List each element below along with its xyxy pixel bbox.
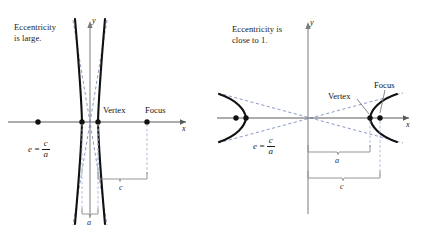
equation-operator-left: =	[35, 144, 40, 154]
equation-lhs-right: e	[253, 141, 257, 151]
x-axis-label-left: x	[182, 124, 186, 133]
equation-fraction-right: c a	[267, 136, 275, 157]
equation-operator-right: =	[260, 141, 265, 151]
measure-bracket-c-right	[308, 171, 380, 181]
measure-label-c-left: c	[119, 183, 123, 192]
vertex-leader-right	[357, 99, 369, 114]
caption-eccentricity-large: Eccentricity is large.	[14, 22, 92, 43]
equation-fraction-left: c a	[42, 139, 50, 160]
measure-bracket-a-right	[308, 145, 370, 155]
focus-point-right-1	[233, 115, 238, 120]
measure-label-c-right: c	[340, 182, 344, 191]
vertex-label-right: Vertex	[328, 91, 350, 101]
eccentricity-equation-right: e = c a	[253, 136, 275, 157]
focus-point-right-2	[377, 115, 382, 120]
vertex-point-right-2	[367, 115, 372, 120]
eccentricity-equation-left: e = c a	[28, 139, 50, 160]
x-axis-label-right: x	[406, 120, 410, 129]
panel-eccentricity-close-to-one: Eccentricity is close to 1. x y Vertex F…	[213, 0, 426, 237]
equation-numerator-left: c	[42, 139, 49, 148]
y-axis-left	[87, 21, 92, 218]
focus-label-right: Focus	[374, 80, 395, 90]
panel-eccentricity-large: Eccentricity is large. x y Vertex Focus …	[0, 0, 213, 237]
vertex-point-left-2	[95, 119, 100, 124]
focus-point-left-1	[35, 119, 40, 124]
caption-eccentricity-close-to-one: Eccentricity is close to 1.	[232, 24, 322, 45]
measure-label-a-right: a	[335, 156, 339, 165]
focus-label-left: Focus	[145, 105, 166, 115]
vertex-point-right-1	[243, 115, 248, 120]
equation-lhs-left: e	[28, 144, 32, 154]
equation-denominator-right: a	[267, 147, 275, 156]
focus-point-left-2	[144, 119, 149, 124]
measure-guides-left	[98, 124, 147, 176]
equation-numerator-right: c	[267, 136, 274, 145]
vertex-point-left-1	[79, 119, 84, 124]
measure-label-a-left: a	[87, 218, 91, 227]
y-axis-label-left: y	[92, 16, 96, 25]
equation-denominator-left: a	[42, 150, 50, 159]
measure-bracket-c-left	[98, 172, 147, 182]
hyperbola-eccentricity-figure: Eccentricity is large. x y Vertex Focus …	[0, 0, 426, 237]
y-axis-label-right: y	[310, 18, 314, 27]
vertex-label-left: Vertex	[103, 105, 125, 115]
